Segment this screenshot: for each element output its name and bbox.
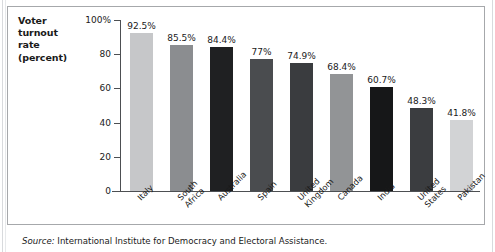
y-tick-label: 100% [85, 15, 111, 25]
bar-value-label: 85.5% [167, 33, 196, 43]
bar-value-label: 84.4% [207, 35, 236, 45]
bar[interactable]: 60.7% [370, 87, 393, 191]
bar[interactable]: 92.5% [130, 33, 153, 191]
bar[interactable]: 74.9% [290, 63, 313, 191]
y-tick-label: 60 [100, 83, 111, 93]
bar-value-label: 41.8% [447, 108, 476, 118]
bar[interactable]: 84.4% [210, 47, 233, 191]
y-axis-title-line-3: rate [18, 39, 90, 51]
y-axis-title: Voter turnout rate (percent) [18, 15, 90, 64]
bar[interactable]: 68.4% [330, 74, 353, 191]
y-axis-title-line-4: (percent) [18, 52, 90, 64]
bar-value-label: 74.9% [287, 51, 316, 61]
bar-value-label: 48.3% [407, 96, 436, 106]
bar-value-label: 68.4% [327, 62, 356, 72]
source-text: International Institute for Democracy an… [57, 236, 327, 246]
bar[interactable]: 77% [250, 59, 273, 191]
scan-edge-left-secondary [5, 0, 6, 252]
bar-series: 92.5%85.5%84.4%77%74.9%68.4%60.7%48.3%41… [120, 20, 480, 191]
bar-value-label: 92.5% [127, 21, 156, 31]
bar-value-label: 60.7% [367, 75, 396, 85]
y-tick-label: 20 [100, 152, 111, 162]
y-tick-mark [114, 191, 121, 192]
y-tick-label: 80 [100, 49, 111, 59]
y-axis-title-line-2: turnout [18, 27, 90, 39]
y-axis-title-line-1: Voter [18, 15, 90, 27]
scan-edge-right [492, 0, 493, 252]
source-note: Source: International Institute for Demo… [22, 236, 327, 246]
bar[interactable]: 48.3% [410, 108, 433, 191]
chart-panel: Voter turnout rate (percent) 100%8060402… [7, 6, 485, 225]
bar[interactable]: 85.5% [170, 45, 193, 191]
bar-value-label: 77% [251, 47, 271, 57]
plot-area: 100%806040200 92.5%85.5%84.4%77%74.9%68.… [120, 20, 480, 191]
y-tick-label: 40 [100, 118, 111, 128]
y-tick-label: 0 [105, 186, 111, 196]
scan-edge-left [2, 0, 3, 252]
source-label: Source: [22, 236, 55, 246]
